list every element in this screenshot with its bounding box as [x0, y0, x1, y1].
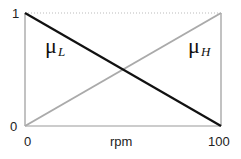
mu-l-subscript: L — [57, 44, 65, 59]
x-tick-100: 100 — [208, 134, 230, 149]
mu-h-label: μ — [188, 33, 200, 58]
mu-h-subscript: H — [200, 44, 211, 59]
x-tick-0: 0 — [24, 134, 31, 149]
membership-chart: 1 0 0 100 rpm μ L μ H — [0, 0, 241, 159]
y-tick-0: 0 — [10, 119, 17, 134]
y-tick-1: 1 — [12, 6, 19, 21]
mu-l-label: μ — [45, 33, 57, 58]
x-axis-label: rpm — [110, 134, 132, 149]
